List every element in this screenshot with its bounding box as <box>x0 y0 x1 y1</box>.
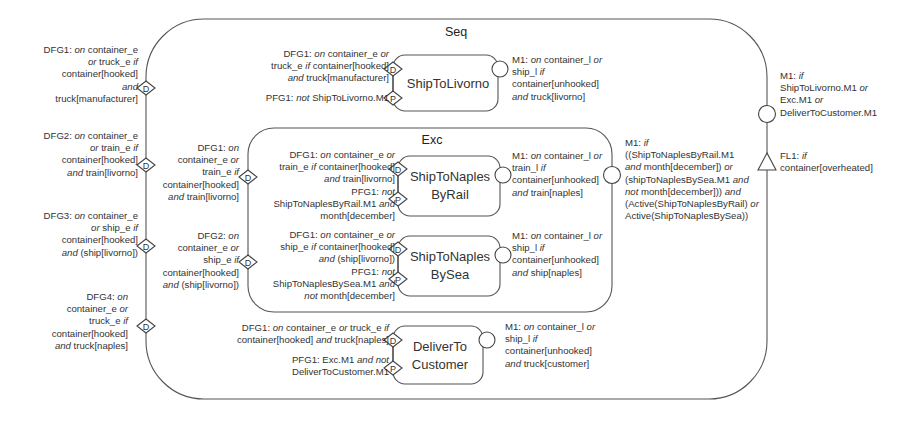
seq-dfg3-data-guard-icon[interactable]: D <box>137 239 155 253</box>
svg-text:P: P <box>390 364 396 374</box>
annotation-line: Active(ShipToNaplesBySea)) <box>625 210 759 222</box>
annotation-line: PFG1: not ShipToLivorno.M1 <box>266 92 389 104</box>
annotation-line: and train[naples] <box>512 187 602 199</box>
deliver-to-customer-milestone-icon[interactable] <box>479 332 495 348</box>
seq-dfg2-data-guard-icon[interactable]: D <box>137 158 155 172</box>
annotation-line: container[hooked] <box>163 267 239 279</box>
annotation-line: DFG1: on container_e or <box>271 48 389 60</box>
annotation-line: ShipToLivorno.M1 or <box>780 82 877 94</box>
annotation-line: train_e if container[hooked] <box>273 161 395 173</box>
annotation-line: ShipToNaplesBySea.M1 and <box>273 278 395 290</box>
ship-to-livorno-title: ShipToLivorno <box>407 76 489 91</box>
seq-stage-title: Seq <box>445 25 467 39</box>
seq-m1-annotation: M1: ifShipToLivorno.M1 orExc.M1 orDelive… <box>780 70 877 119</box>
annotation-line: container[hooked] <box>44 154 138 166</box>
svg-text:D: D <box>245 173 252 183</box>
annotation-line: and ship[naples] <box>512 267 602 279</box>
annotation-line: or truck_e if <box>44 56 138 68</box>
seq-dfg2-annotation: DFG2: on container_eor train_e ifcontain… <box>44 130 138 179</box>
annotation-line: (shipToNaplesBySea.M1 and <box>625 174 759 186</box>
svg-text:D: D <box>143 242 150 252</box>
ship-to-naples-by-rail-guards-annotation: DFG1: on container_e ortrain_e if contai… <box>273 149 395 222</box>
annotation-line: and <box>44 81 138 93</box>
annotation-line: truck[manufacturer] <box>44 93 138 105</box>
annotation-line: and train[livorno] <box>273 173 395 185</box>
annotation-line: ship_l if <box>512 66 602 78</box>
annotation-line: FL1: if <box>780 150 873 162</box>
svg-text:D: D <box>395 245 402 255</box>
annotation-line: M1: on container_l or <box>505 321 595 333</box>
annotation-line: ship_e if container[hooked] <box>273 241 395 253</box>
seq-milestone-icon[interactable] <box>759 106 776 123</box>
annotation-line: DFG1: on container_e or truck_e if <box>237 322 389 334</box>
annotation-line: M1: on container_l or <box>512 230 602 242</box>
annotation-line: train_e if <box>163 166 239 178</box>
deliver-to-customer-title-1: DeliverTo <box>413 339 467 354</box>
ship-to-naples-by-rail-milestone-icon[interactable] <box>495 167 511 183</box>
exc-milestone-icon[interactable] <box>604 167 621 184</box>
annotation-line: and train[livorno] <box>44 167 138 179</box>
annotation-line: truck_e if container[hooked] <box>271 60 389 72</box>
ship-to-naples-by-rail-m1-annotation: M1: on container_l ortrain_l ifcontainer… <box>512 150 602 199</box>
svg-text:D: D <box>390 336 397 346</box>
annotation-line: container[hooked] <box>44 68 138 80</box>
ship-to-naples-by-sea-milestone-icon[interactable] <box>495 247 511 263</box>
seq-dfg1-data-guard-icon[interactable]: D <box>137 81 155 95</box>
annotation-line: or train_e if <box>44 142 138 154</box>
annotation-line: M1: on container_l or <box>512 54 602 66</box>
deliver-to-customer-pfg1-annotation: PFG1: Exc.M1 and notDeliverToCustomer.M1 <box>292 354 389 378</box>
annotation-line: PFG1: not <box>273 266 395 278</box>
annotation-line: (Active(ShipToNaplesByRail) or <box>625 198 759 210</box>
annotation-line: ShipToNaplesByRail.M1 and <box>273 198 395 210</box>
svg-text:D: D <box>143 161 150 171</box>
seq-dfg4-data-guard-icon[interactable]: D <box>137 319 155 333</box>
ship-to-livorno-milestone-icon[interactable] <box>492 61 508 77</box>
annotation-line: container[hooked] <box>163 179 239 191</box>
ship-to-naples-by-sea-stage[interactable] <box>398 236 500 296</box>
ship-to-naples-by-sea-title-2: BySea <box>431 267 470 282</box>
svg-text:D: D <box>395 165 402 175</box>
annotation-line: train_l if <box>512 162 602 174</box>
exc-dfg1-data-guard-icon[interactable]: D <box>239 170 257 184</box>
annotation-line: and truck[customer] <box>505 358 595 370</box>
deliver-to-customer-dfg1-annotation: DFG1: on container_e or truck_e ifcontai… <box>237 322 389 346</box>
annotation-line: M1: if <box>625 137 759 149</box>
exc-m1-annotation: M1: if((ShipToNaplesByRail.M1and month[d… <box>625 137 759 222</box>
annotation-line: and truck[naples] <box>52 340 128 352</box>
seq-dfg3-annotation: DFG3: on container_eor ship_e ifcontaine… <box>44 210 138 259</box>
ship-to-naples-by-sea-title-1: ShipToNaples <box>410 249 491 264</box>
annotation-line: and (ship[livorno]) <box>273 253 395 265</box>
seq-dfg4-annotation: DFG4: oncontainer_e ortruck_e ifcontaine… <box>52 291 128 352</box>
seq-fl1-annotation: FL1: ifcontainer[overheated] <box>780 150 873 174</box>
svg-text:P: P <box>395 275 401 285</box>
ship-to-naples-by-rail-stage[interactable] <box>398 156 500 216</box>
annotation-line: M1: if <box>780 70 877 82</box>
annotation-line: and truck[livorno] <box>512 91 602 103</box>
annotation-line: DeliverToCustomer.M1 <box>780 107 877 119</box>
annotation-line: DFG3: on container_e <box>44 210 138 222</box>
deliver-to-customer-stage[interactable] <box>393 326 483 384</box>
annotation-line: container[hooked] and truck[naples] <box>237 334 389 346</box>
annotation-line: container[unhooked] <box>512 254 602 266</box>
annotation-line: DFG1: on container_e or <box>273 149 395 161</box>
annotation-line: ((ShipToNaplesByRail.M1 <box>625 149 759 161</box>
annotation-line: truck_e if <box>52 315 128 327</box>
svg-text:P: P <box>390 94 396 104</box>
seq-fault-logic-triangle-icon[interactable] <box>758 153 776 170</box>
annotation-line: DFG2: on container_e <box>44 130 138 142</box>
deliver-to-customer-m1-annotation: M1: on container_l orship_l ifcontainer[… <box>505 321 595 370</box>
annotation-line: PFG1: not <box>273 186 395 198</box>
annotation-line: or ship_e if <box>44 222 138 234</box>
annotation-line: and (ship[livorno]) <box>44 247 138 259</box>
exc-dfg1-annotation: DFG1: oncontainer_e ortrain_e ifcontaine… <box>163 142 239 203</box>
svg-text:P: P <box>395 195 401 205</box>
annotation-line: and month[december]) or <box>625 161 759 173</box>
annotation-line: and (ship[livorno]) <box>163 279 239 291</box>
svg-text:D: D <box>245 258 252 268</box>
annotation-line: DFG4: on <box>52 291 128 303</box>
annotation-line: container[unhooked] <box>512 78 602 90</box>
ship-to-livorno-m1-annotation: M1: on container_l orship_l ifcontainer[… <box>512 54 602 103</box>
exc-dfg2-data-guard-icon[interactable]: D <box>239 255 257 269</box>
annotation-line: and truck[manufacturer] <box>271 72 389 84</box>
annotation-line: not month[december])) and <box>625 186 759 198</box>
